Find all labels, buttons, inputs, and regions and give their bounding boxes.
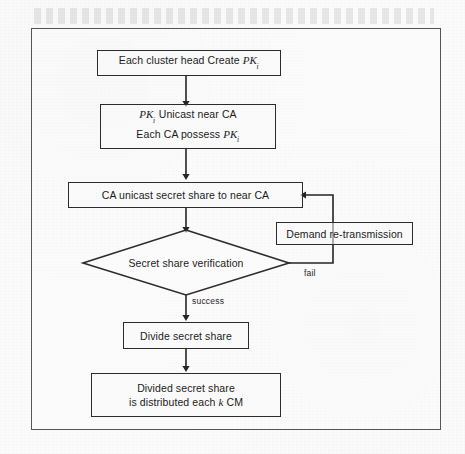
node-divided-distributed-line2: is distributed each k CM (129, 395, 243, 409)
node-divided-distributed: Divided secret share is distributed each… (91, 373, 281, 417)
node-cluster-head-create-label: Each cluster head Create PKi (119, 53, 259, 72)
node-ca-unicast-secret-share: CA unicast secret share to near CA (68, 182, 303, 208)
node-unicast-possess-line1: PKi Unicast near CA (139, 107, 236, 126)
edge-label-fail: fail (304, 268, 316, 278)
node-unicast-possess: PKi Unicast near CA Each CA possess PKi (100, 104, 276, 149)
figure-page: Each cluster head Create PKi PKi Unicast… (0, 0, 465, 454)
node-divide-secret-share: Divide secret share (123, 322, 249, 349)
node-divide-secret-share-label: Divide secret share (140, 329, 232, 343)
node-ca-unicast-secret-share-label: CA unicast secret share to near CA (102, 188, 269, 202)
node-unicast-possess-line2: Each CA possess PKi (136, 127, 239, 146)
edge-label-success: success (192, 296, 224, 306)
node-divided-distributed-line1: Divided secret share (137, 381, 235, 395)
node-cluster-head-create: Each cluster head Create PKi (97, 50, 281, 76)
node-demand-retransmission: Demand re-transmission (276, 222, 413, 245)
node-secret-share-verification-label: Secret share verification (104, 254, 268, 272)
node-demand-retransmission-label: Demand re-transmission (286, 227, 403, 241)
